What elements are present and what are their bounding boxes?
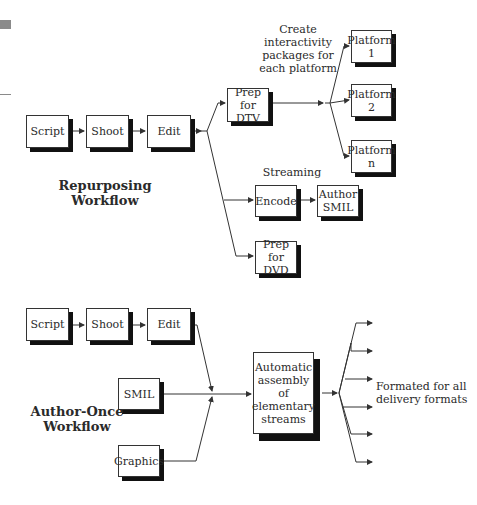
assembly-box: Automatic assembly of elementary streams xyxy=(253,352,314,434)
platform-1-box: Platform 1 xyxy=(351,30,392,63)
repurposing-title: Repurposing Workflow xyxy=(50,178,160,208)
authoronce-title: Author-Once Workflow xyxy=(22,404,132,434)
repurposing-script-box: Script xyxy=(26,115,69,148)
encode-box: Encode xyxy=(255,185,297,217)
repurposing-shoot-box: Shoot xyxy=(86,115,129,148)
streaming-annotation: Streaming xyxy=(262,166,322,179)
prep-dvd-box: Prep for DVD xyxy=(255,241,297,274)
repurposing-edit-box: Edit xyxy=(147,115,191,148)
platform-2-box: Platform 2 xyxy=(351,84,392,117)
interactivity-annotation: Create interactivity packages for each p… xyxy=(248,23,348,75)
output-annotation: Formated for all delivery formats xyxy=(376,380,471,406)
author-smil-box: Author SMIL xyxy=(317,185,359,217)
prep-dtv-box: Prep for DTV xyxy=(227,88,269,122)
platform-n-box: Platform n xyxy=(351,140,392,173)
graphics-box: Graphics xyxy=(118,445,160,477)
authoronce-script-box: Script xyxy=(26,308,69,341)
authoronce-edit-box: Edit xyxy=(147,308,191,341)
authoronce-shoot-box: Shoot xyxy=(86,308,129,341)
